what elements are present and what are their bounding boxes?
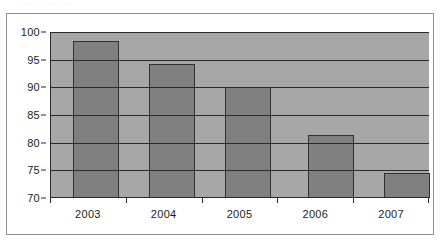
y-axis-label: 80 <box>27 137 40 149</box>
x-axis-tick <box>277 198 278 203</box>
x-axis: 20032004200520062007 <box>50 198 429 232</box>
y-axis-label: 85 <box>27 109 40 121</box>
y-axis-tick <box>41 115 46 116</box>
x-axis-label: 2005 <box>227 208 253 220</box>
y-axis-tick <box>41 142 46 143</box>
plot-area <box>50 32 429 198</box>
x-axis-label: 2006 <box>302 208 328 220</box>
clipped-text-artifact: · ·· ·· ··· ·· <box>18 0 318 7</box>
y-axis-tick <box>41 198 46 199</box>
x-axis-label: 2007 <box>378 208 404 220</box>
x-axis-tick <box>50 198 51 203</box>
x-axis-label: 2004 <box>151 208 177 220</box>
gridline <box>51 170 429 171</box>
gridline <box>51 87 429 88</box>
y-axis-label: 95 <box>27 54 40 66</box>
y-axis-label: 70 <box>27 192 40 204</box>
plot-area-wrapper: 707580859095100 20032004200520062007 <box>50 32 429 198</box>
y-axis-label: 90 <box>27 81 40 93</box>
y-axis-tick <box>41 59 46 60</box>
y-axis-tick <box>41 87 46 88</box>
bar[interactable] <box>384 173 430 198</box>
y-axis-tick <box>41 170 46 171</box>
gridline <box>51 60 429 61</box>
gridline <box>51 115 429 116</box>
x-axis-tick <box>202 198 203 203</box>
y-axis-tick <box>41 32 46 33</box>
bar[interactable] <box>149 64 195 198</box>
x-axis-tick <box>428 198 429 203</box>
x-axis-tick <box>353 198 354 203</box>
gridline <box>51 32 429 33</box>
bar[interactable] <box>308 135 354 198</box>
y-axis-label: 100 <box>21 26 40 38</box>
y-axis-label: 75 <box>27 164 40 176</box>
gridline <box>51 143 429 144</box>
bar[interactable] <box>73 41 119 198</box>
x-axis-label: 2003 <box>75 208 101 220</box>
y-axis: 707580859095100 <box>10 32 46 198</box>
chart-frame: 707580859095100 20032004200520062007 <box>6 13 434 235</box>
x-axis-tick <box>126 198 127 203</box>
